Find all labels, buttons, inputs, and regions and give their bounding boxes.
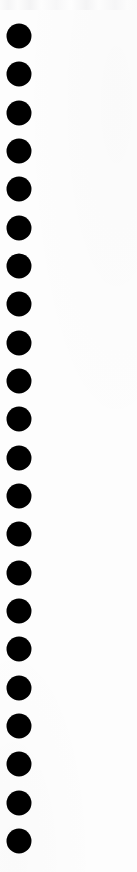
binding-hole xyxy=(6,675,31,700)
binding-hole xyxy=(6,24,31,49)
binding-hole xyxy=(6,330,31,355)
binding-hole xyxy=(6,752,31,777)
binding-hole xyxy=(6,445,31,470)
binding-hole xyxy=(6,484,31,509)
binding-hole xyxy=(6,215,31,240)
binding-hole xyxy=(6,599,31,624)
binding-hole-column xyxy=(0,0,137,872)
binding-hole xyxy=(6,714,31,739)
binding-hole xyxy=(6,139,31,164)
binding-hole xyxy=(6,829,31,854)
binding-hole xyxy=(6,62,31,87)
binding-hole xyxy=(6,407,31,432)
binding-hole xyxy=(6,100,31,125)
binding-hole xyxy=(6,292,31,317)
binding-hole xyxy=(6,790,31,815)
binding-hole xyxy=(6,522,31,547)
binding-hole xyxy=(6,637,31,662)
binding-hole xyxy=(6,177,31,202)
scanned-page-strip xyxy=(0,0,137,872)
binding-hole xyxy=(6,254,31,279)
binding-hole xyxy=(6,560,31,585)
binding-hole xyxy=(6,369,31,394)
